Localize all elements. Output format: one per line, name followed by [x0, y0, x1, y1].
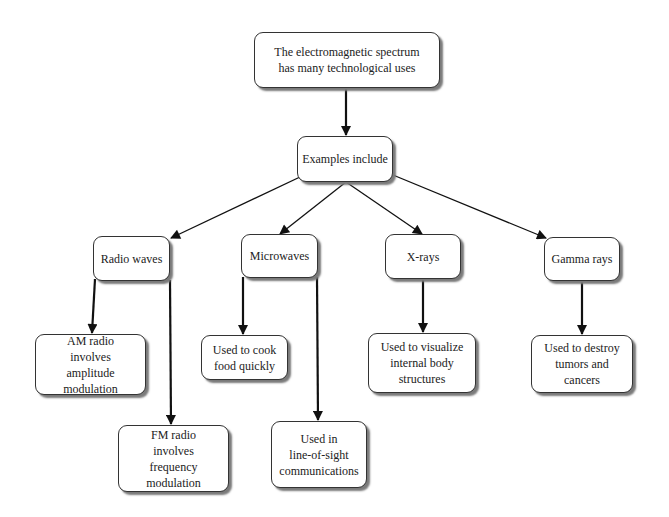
node-visualize-body: Used to visualize internal body structur…: [368, 333, 476, 393]
node-cook-food-label: Used to cook food quickly: [213, 342, 276, 374]
node-examples-label: Examples include: [302, 151, 388, 167]
node-line-of-sight: Used in line-of-sight communications: [271, 421, 367, 488]
node-destroy-tumors: Used to destroy tumors and cancers: [531, 335, 633, 393]
node-fm-radio: FM radio involves frequency modulation: [118, 425, 229, 492]
node-gamma-rays-label: Gamma rays: [552, 251, 613, 267]
node-line-of-sight-label: Used in line-of-sight communications: [279, 431, 358, 479]
node-x-rays: X-rays: [385, 234, 461, 279]
node-x-rays-label: X-rays: [407, 249, 440, 265]
node-destroy-tumors-label: Used to destroy tumors and cancers: [536, 340, 628, 388]
edge-examples-radio: [171, 177, 300, 238]
node-fm-radio-label: FM radio involves frequency modulation: [123, 427, 224, 491]
edge-micro-los: [317, 277, 318, 420]
node-examples: Examples include: [297, 136, 393, 182]
edge-radio-fm: [170, 280, 171, 424]
node-gamma-rays: Gamma rays: [544, 237, 620, 281]
node-root: The electromagnetic spectrum has many te…: [254, 32, 440, 88]
edge-radio-am: [92, 279, 95, 333]
node-root-label: The electromagnetic spectrum has many te…: [274, 44, 419, 76]
edge-examples-gamma: [393, 175, 546, 238]
node-am-radio: AM radio involves amplitude modulation: [35, 334, 146, 395]
edge-examples-micro: [280, 182, 346, 234]
node-radio-waves-label: Radio waves: [101, 251, 163, 267]
node-radio-waves: Radio waves: [93, 236, 170, 281]
node-microwaves-label: Microwaves: [250, 248, 309, 264]
edge-examples-xray: [346, 182, 422, 234]
node-am-radio-label: AM radio involves amplitude modulation: [40, 333, 141, 397]
node-microwaves: Microwaves: [241, 234, 318, 278]
node-visualize-body-label: Used to visualize internal body structur…: [381, 339, 464, 387]
node-cook-food: Used to cook food quickly: [201, 335, 288, 380]
